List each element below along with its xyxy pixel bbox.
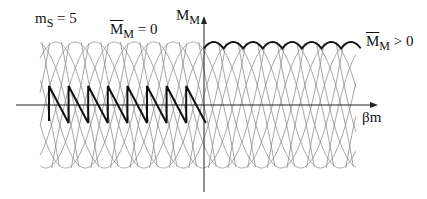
- mbar-positive-label: MM > 0: [366, 34, 413, 49]
- mbar-pos-value: > 0: [390, 33, 413, 49]
- diagram-canvas: [0, 0, 427, 199]
- ms-label-main: m: [35, 10, 47, 26]
- x-axis-label-main: βm: [362, 109, 381, 125]
- ms-label: mS = 5: [35, 11, 77, 26]
- mbar-pos-main: M: [366, 33, 379, 49]
- mbar-zero-sub: M: [123, 27, 134, 41]
- x-axis-label: βm: [362, 110, 381, 125]
- x-axis-arrow-icon: [370, 102, 378, 108]
- mbar-zero-value: = 0: [134, 21, 157, 37]
- ms-label-value: = 5: [53, 10, 76, 26]
- mbar-zero-label: MM = 0: [110, 22, 157, 37]
- y-axis-label: MM: [176, 8, 200, 23]
- y-axis-arrow-icon: [201, 16, 207, 24]
- y-axis-label-sub: M: [189, 13, 200, 27]
- ms-label-sub: S: [47, 16, 54, 30]
- y-axis-label-main: M: [176, 7, 189, 23]
- mbar-zero-main: M: [110, 21, 123, 37]
- mbar-pos-sub: M: [379, 39, 390, 53]
